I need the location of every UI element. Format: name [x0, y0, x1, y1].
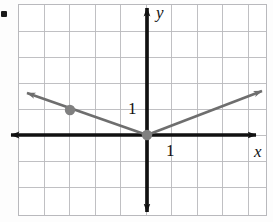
vertex-point [142, 130, 152, 140]
x-axis-unit-tick-label: 1 [166, 142, 175, 159]
graph-screenshot: y x 1 1 [0, 0, 273, 222]
coordinate-plane-figure [0, 0, 273, 222]
y-axis-label: y [156, 4, 164, 21]
left-branch-point [65, 105, 75, 115]
y-axis-unit-tick-label: 1 [128, 100, 137, 117]
x-axis-label: x [254, 143, 262, 160]
grid-background [19, 5, 267, 216]
